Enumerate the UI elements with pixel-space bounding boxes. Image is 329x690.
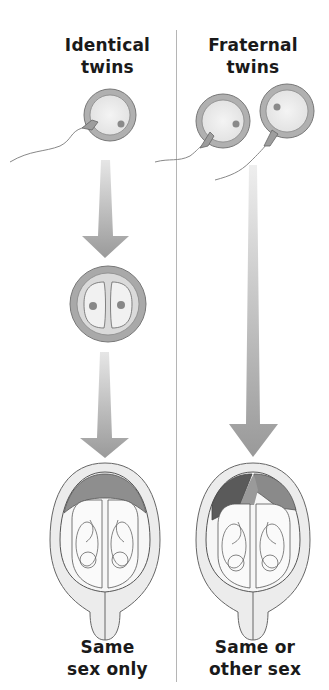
fraternal-outcome-label: Same or other sex [195,636,315,680]
fraternal-outcome-line1: Same or [195,636,315,658]
twins-illustration [0,0,329,690]
arrow-down-icon [229,165,278,457]
fraternal-eggs-icon [155,84,314,180]
identical-outcome-label: Same sex only [50,636,165,680]
identical-outcome-line1: Same [50,636,165,658]
identical-uterus-icon [50,463,160,640]
fraternal-uterus-icon [196,463,310,640]
fraternal-outcome-line2: other sex [195,658,315,680]
arrow-down-icon [82,160,129,258]
identical-outcome-line2: sex only [50,658,165,680]
arrow-down-icon [80,352,129,458]
two-cell-zygote-icon [70,266,146,342]
identical-egg-icon [10,89,136,162]
